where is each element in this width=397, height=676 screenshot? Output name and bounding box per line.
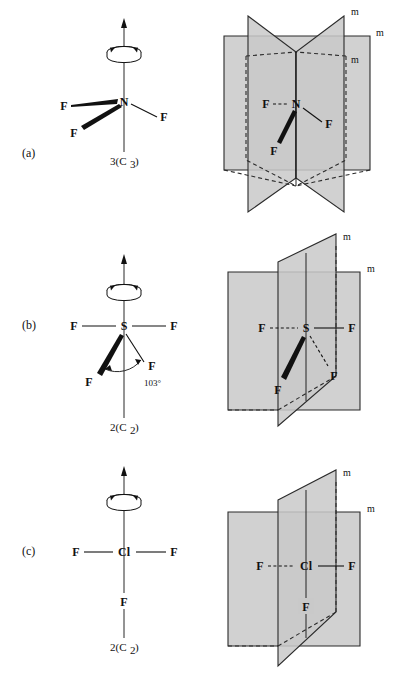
panel-b-right-ligand-left: F bbox=[258, 321, 265, 335]
panel-b-ligand-wedge: F bbox=[85, 375, 92, 389]
mirror-label-3: m bbox=[351, 54, 359, 65]
panel-a: N F F F 3(C 3 ) (a) bbox=[0, 0, 397, 228]
mirror-label-2: m bbox=[367, 503, 375, 514]
panel-a-ligand-left-lower: F bbox=[70, 126, 77, 140]
panel-c-right-ligand-bottom: F bbox=[302, 600, 309, 614]
axis-label-main: 3(C bbox=[110, 155, 127, 168]
panel-b-ligand-right: F bbox=[170, 319, 177, 333]
symmetry-elements-figure: N F F F 3(C 3 ) (a) bbox=[0, 0, 397, 676]
panel-b-right-ligand-dashed: F bbox=[330, 369, 337, 383]
panel-b-angle-label: 103° bbox=[144, 378, 162, 388]
mirror-label-2: m bbox=[376, 27, 384, 38]
panel-c-central-atom: Cl bbox=[118, 545, 131, 559]
panel-c-right-central-atom: Cl bbox=[300, 559, 313, 573]
panel-a-ligand-right: F bbox=[160, 110, 167, 124]
panel-b-right-ligand-wedge: F bbox=[274, 383, 281, 397]
panel-b-label: (b) bbox=[22, 318, 36, 333]
panel-b-right-ligand-right: F bbox=[348, 321, 355, 335]
panel-c-right-ligand-right: F bbox=[348, 559, 355, 573]
bond-n-f-right bbox=[131, 104, 157, 117]
panel-c-ligand-left: F bbox=[72, 545, 79, 559]
rotation-axis-icon bbox=[107, 254, 141, 301]
bond-s-f-eq-right bbox=[126, 334, 144, 362]
panel-a-ligand-left-upper: F bbox=[60, 99, 67, 113]
bond-n-f-left-upper-wedge bbox=[71, 99, 118, 107]
panel-b-central-atom: S bbox=[121, 319, 128, 333]
panel-c-ligand-right: F bbox=[170, 545, 177, 559]
panel-c-axis-label: 2(C 2 ) bbox=[110, 641, 139, 656]
rotation-axis-icon bbox=[107, 466, 141, 511]
panel-c: Cl F F F 2(C 2 ) (c) bbox=[0, 460, 397, 676]
axis-label-close: ) bbox=[135, 421, 139, 434]
panel-a-right-ligand-right: F bbox=[325, 117, 332, 131]
panel-b-mirror-diagram: S F F F F m m bbox=[210, 228, 397, 460]
axis-label-close: ) bbox=[135, 155, 139, 168]
panel-b-axis-label: 2(C 2 ) bbox=[110, 421, 139, 436]
panel-c-ligand-bottom: F bbox=[120, 595, 127, 609]
mirror-label-1: m bbox=[343, 467, 351, 478]
panel-b-ligand-left: F bbox=[70, 319, 77, 333]
axis-label-main: 2(C bbox=[110, 421, 127, 434]
mirror-label-2: m bbox=[367, 263, 375, 274]
axis-label-main: 2(C bbox=[110, 641, 127, 654]
bond-n-f-left-lower-wedge bbox=[81, 104, 122, 130]
panel-a-mirror-diagram: N F F F m m m bbox=[210, 0, 397, 228]
axis-label-close: ) bbox=[135, 641, 139, 654]
rotation-axis-icon bbox=[107, 18, 141, 63]
panel-c-label: (c) bbox=[22, 544, 35, 559]
mirror-label-1: m bbox=[351, 6, 359, 17]
panel-c-molecule-diagram: Cl F F F 2(C 2 ) (c) bbox=[0, 460, 210, 676]
panel-a-molecule-diagram: N F F F 3(C 3 ) (a) bbox=[0, 0, 210, 228]
panel-b: S F F F F 103° bbox=[0, 228, 397, 460]
panel-a-right-central-atom: N bbox=[292, 97, 301, 111]
panel-a-label: (a) bbox=[22, 146, 35, 161]
mirror-label-1: m bbox=[343, 231, 351, 242]
panel-a-right-ligand-left: F bbox=[262, 97, 269, 111]
panel-c-mirror-diagram: Cl F F F m m bbox=[210, 460, 397, 676]
panel-c-right-ligand-left: F bbox=[256, 559, 263, 573]
panel-b-ligand-dashed: F bbox=[148, 359, 155, 373]
panel-b-right-central-atom: S bbox=[303, 321, 310, 335]
panel-a-axis-label: 3(C 3 ) bbox=[110, 155, 139, 170]
panel-b-molecule-diagram: S F F F F 103° bbox=[0, 228, 210, 460]
panel-a-right-ligand-front: F bbox=[270, 144, 277, 158]
